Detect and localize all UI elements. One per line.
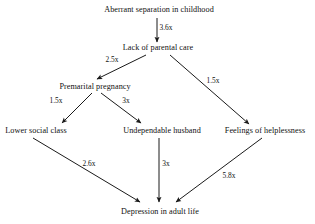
edge-arrow-lowerclass-to-depression: [33, 138, 140, 202]
edge-arrow-premarital-to-husband: [101, 93, 141, 123]
edge-label-premarital-to-husband: 3x: [122, 97, 129, 104]
edge-label-premarital-to-lowerclass: 1.5x: [50, 97, 63, 104]
causal-pathway-diagram: Aberrant separation in childhoodLack of …: [0, 0, 315, 224]
node-depression: Depression in adult life: [121, 208, 199, 216]
node-separation: Aberrant separation in childhood: [104, 6, 214, 14]
edge-arrow-premarital-to-lowerclass: [62, 93, 92, 123]
node-husband: Undependable husband: [123, 127, 201, 135]
node-premarital: Premarital pregnancy: [59, 83, 130, 91]
node-helpless: Feelings of helplessness: [225, 127, 305, 135]
edge-label-separation-to-parental: 3.6x: [160, 24, 173, 31]
edge-label-parental-to-helpless: 1.5x: [207, 77, 220, 84]
edge-arrow-parental-to-helpless: [170, 55, 249, 124]
node-parental: Lack of parental care: [123, 44, 193, 52]
edge-label-husband-to-depression: 3x: [162, 160, 169, 167]
node-lowerclass: Lower social class: [5, 127, 66, 135]
edge-arrow-helpless-to-depression: [176, 138, 262, 202]
edge-arrow-parental-to-premarital: [97, 55, 146, 79]
edge-label-helpless-to-depression: 5.8x: [223, 172, 236, 179]
edge-label-parental-to-premarital: 2.5x: [106, 56, 119, 63]
edge-layer: [0, 0, 315, 224]
edge-label-lowerclass-to-depression: 2.6x: [83, 160, 96, 167]
